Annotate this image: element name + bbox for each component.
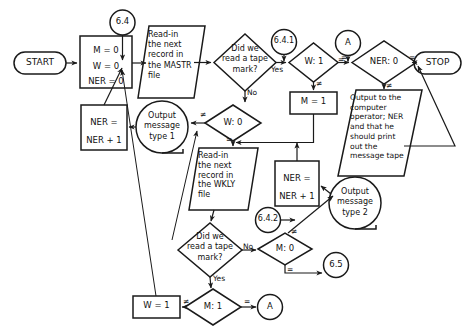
cmp-m-0-shape	[258, 233, 312, 265]
conn-a-top-shape	[336, 31, 361, 56]
edge-label-w0-ne: ≠	[200, 111, 206, 119]
conn-a-bottom-shape	[258, 295, 283, 320]
edge-label-tape1-yes: Yes	[271, 66, 283, 74]
edge-label-tape2-yes: Yes	[213, 275, 225, 283]
edge-label-a-top-eq: =	[341, 54, 347, 62]
edge-label-w0-eq: =	[226, 136, 232, 144]
edge-outmsg2-to-nerinc2	[321, 186, 331, 194]
edge-label-ner0-ne: ≠	[386, 82, 392, 90]
decide-tape-2-shape	[178, 223, 242, 277]
edge-label-m1-eq: =	[244, 298, 250, 306]
flowchart-canvas: START M = 0 W = 0 NER = 0 6.4 Read-in th…	[0, 0, 471, 334]
edge-readwkly-to-decide2	[211, 210, 214, 221]
edge-decide2-yes-down	[210, 277, 211, 288]
set-w-1-shape	[133, 296, 180, 318]
conn-6-4-1-shape	[272, 30, 297, 55]
set-m-1-shape	[290, 92, 337, 114]
edge-label-tape2-no: No	[243, 243, 253, 251]
decide-tape-1-shape	[214, 34, 276, 91]
out-msg-2-shape	[329, 177, 381, 229]
edge-label-m1-ne: ≠	[183, 298, 189, 306]
edge-label-m0-ne: ≠	[291, 228, 297, 236]
conn-6-4-2-shape	[256, 208, 281, 233]
read-wkly-shape	[189, 148, 258, 210]
start-shape	[14, 52, 66, 74]
cmp-m-1-shape	[185, 289, 241, 325]
cmp-w-1-shape	[289, 43, 338, 82]
edge-label-m0-eq: =	[287, 266, 293, 274]
conn-6-5-shape	[324, 253, 349, 278]
edge-nerinc1-up-to-readmastr	[104, 68, 122, 105]
init-shape	[80, 36, 132, 88]
edge-output-operator-to-stop	[404, 66, 455, 146]
cmp-ner-0-shape	[352, 41, 416, 84]
edge-m1box-down-to-join	[236, 114, 314, 143]
edge-label-tape1-no: No	[247, 89, 257, 97]
ner-inc-2-shape	[275, 161, 319, 206]
flowchart-vector-layer	[0, 0, 471, 334]
out-msg-1-shape	[136, 101, 188, 153]
conn-6-4-shape	[110, 10, 135, 35]
output-operator-shape	[338, 90, 422, 176]
edge-label-w1-ne: ≠	[316, 80, 322, 88]
cmp-w-0-shape	[205, 105, 261, 141]
edge-label-ner0-eq: =	[409, 54, 415, 62]
stop-shape	[414, 52, 461, 74]
ner-inc-1-shape	[81, 105, 127, 150]
